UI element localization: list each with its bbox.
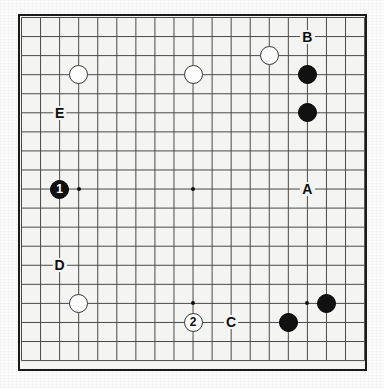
go-diagram-root: 12ABCDE [0,0,384,388]
stone-white-2[interactable]: 2 [184,313,203,332]
stone-black[interactable] [279,313,298,332]
go-board[interactable]: 12ABCDE [18,14,367,371]
star-point [305,301,309,305]
stone-move-number: 2 [185,314,202,331]
board-grid-area: 12ABCDE [18,14,367,371]
marker-a[interactable]: A [300,182,314,196]
stone-white[interactable] [69,294,88,313]
star-point [77,187,81,191]
marker-b[interactable]: B [300,30,314,44]
stone-black[interactable] [298,65,317,84]
star-point [191,187,195,191]
stone-move-number: 1 [51,181,68,198]
stone-white[interactable] [184,65,203,84]
marker-c[interactable]: C [224,315,238,329]
marker-d[interactable]: D [53,258,67,272]
star-point [191,301,195,305]
stone-black-1[interactable]: 1 [50,180,69,199]
marker-e[interactable]: E [53,106,66,120]
stone-black[interactable] [317,294,336,313]
stone-white[interactable] [260,46,279,65]
